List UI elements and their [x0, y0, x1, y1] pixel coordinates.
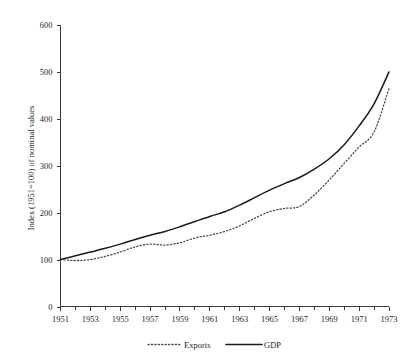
x-tick-label: 1967: [291, 314, 308, 324]
chart-legend: Exports GDP: [148, 340, 281, 350]
x-tick-label: 1969: [321, 314, 338, 324]
x-tick-label: 1963: [231, 314, 248, 324]
x-tick-label: 1953: [82, 314, 99, 324]
x-tick-label: 1959: [171, 314, 188, 324]
x-tick-label: 1961: [201, 314, 218, 324]
x-tick-label: 1973: [381, 314, 398, 324]
y-tick-label: 0: [48, 302, 52, 312]
y-tick-label: 400: [40, 114, 53, 124]
line-chart: Index (1951=100) of nominal values 01002…: [0, 0, 415, 364]
axes: [60, 25, 389, 307]
x-tick-label: 1965: [261, 314, 278, 324]
legend-label-exports: Exports: [184, 340, 210, 350]
x-tick-label: 1971: [351, 314, 368, 324]
y-axis-title: Index (1951=100) of nominal values: [26, 106, 36, 231]
series-line-exports: [61, 88, 390, 260]
x-tick-label: 1957: [142, 314, 159, 324]
y-tick-label: 200: [40, 208, 53, 218]
x-tick-label: 1951: [52, 314, 69, 324]
chart-figure: Index (1951=100) of nominal values 01002…: [0, 0, 415, 364]
series-group: [61, 72, 390, 261]
y-tick-label: 100: [40, 255, 53, 265]
x-tick-label: 1955: [112, 314, 129, 324]
x-axis-ticks: 1951195319551957195919611963196519671969…: [52, 307, 398, 324]
y-tick-label: 300: [40, 161, 53, 171]
legend-label-gdp: GDP: [264, 340, 281, 350]
y-axis-ticks: 0100200300400500600: [40, 20, 61, 312]
y-tick-label: 500: [40, 67, 53, 77]
y-tick-label: 600: [40, 20, 53, 30]
